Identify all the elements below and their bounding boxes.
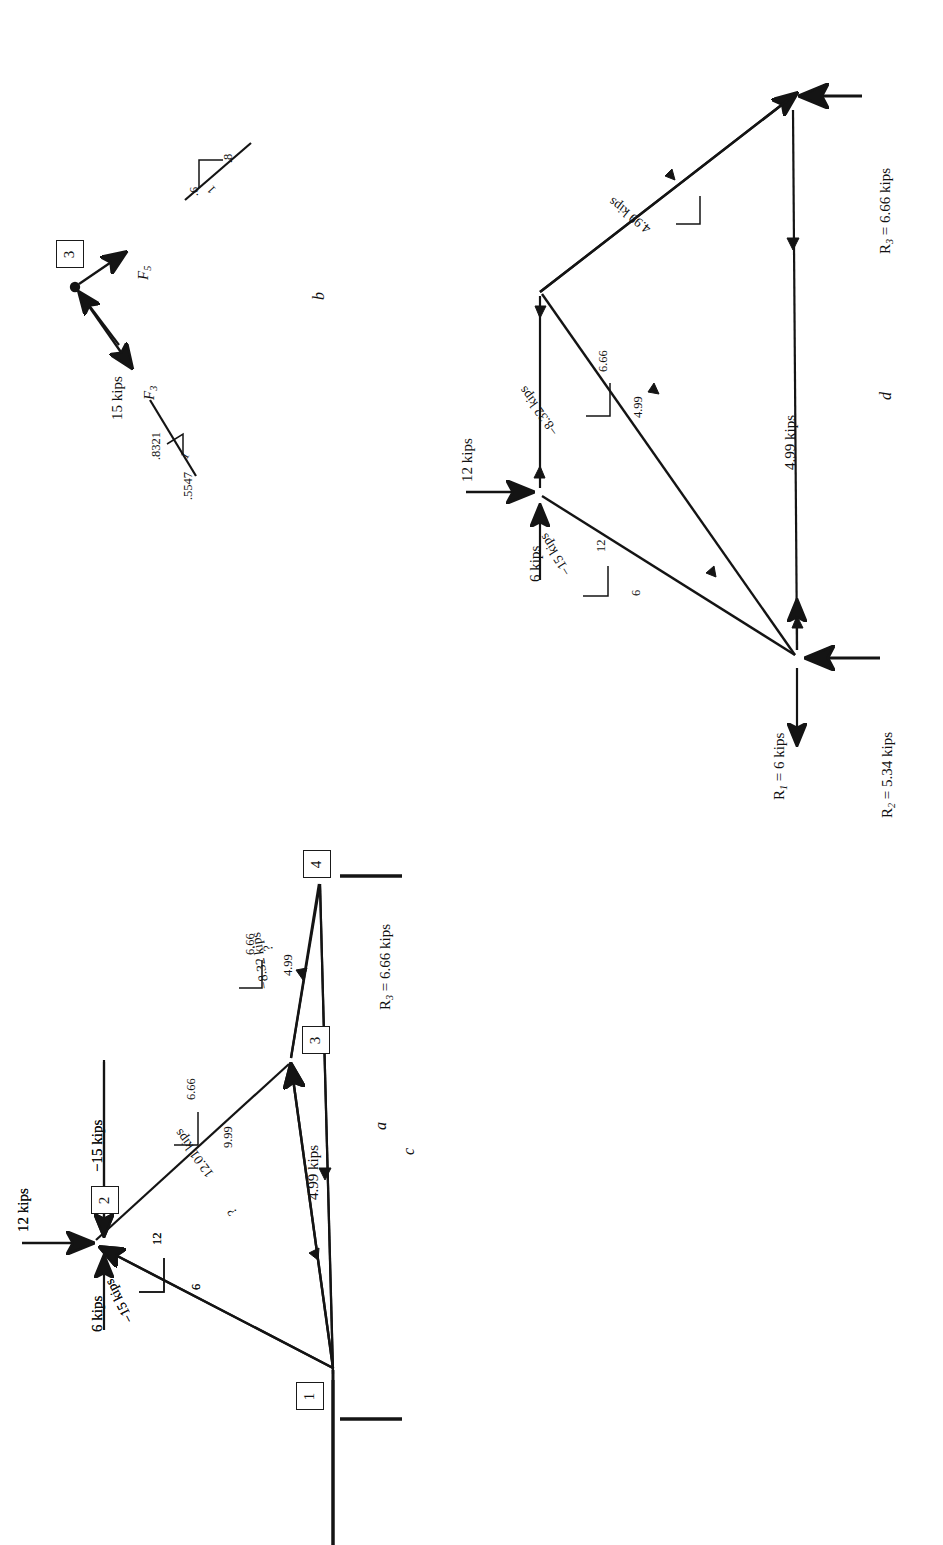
reaction-subscript: 2 [886,803,897,808]
reaction-symbol: R [879,808,895,818]
reaction-value: = 6 kips [771,733,787,785]
panel-d-member-1-3-run: 4.99 [632,396,645,418]
panel-d-load-12-kips-label: 12 kips [460,438,475,482]
reaction-value: = 5.34 kips [879,732,895,803]
panel-d-member-1-3-rise: 6.66 [597,350,610,372]
reaction-subscript: 3 [884,239,895,244]
panel-d-member-1-2-run: 6 [630,590,643,596]
figure-canvas: 1 2 3 4 12 kips 6 kips −15 kips −15 kips… [0,0,943,1545]
reaction-symbol: R [877,244,893,254]
panel-d-member-1-2-rise: 12 [595,540,608,553]
panel-c-slope-ticks [0,0,943,1545]
panel-d-load-6-kips-label: 6 kips [528,546,543,582]
panel-d-reaction-R3-label: R3 = 6.66 kips [878,168,895,254]
panel-d-reaction-R2-label: R2 = 5.34 kips [880,732,897,818]
panel-d-reaction-R1-label: R1 = 6 kips [772,733,789,800]
panel-d-letter: d [877,392,895,400]
reaction-symbol: R [771,790,787,800]
panel-d-member-1-4-499-kips: 4.99 kips [783,415,798,470]
reaction-value: = 6.66 kips [877,168,893,239]
reaction-subscript: 1 [778,785,789,790]
